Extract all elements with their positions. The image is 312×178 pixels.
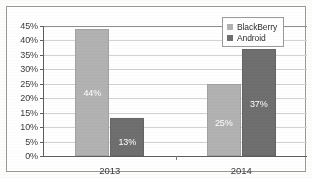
bar-chart-figure: 0%5%10%15%20%25%30%35%40%45%44%13%201325… [0,0,312,178]
x-axis-tick [176,156,177,160]
y-axis-label: 5% [25,137,38,147]
y-axis-tick [40,142,44,143]
legend-swatch-android-icon [227,35,233,41]
y-axis-label: 10% [20,122,38,132]
bar-blackberry-2013[interactable]: 44% [75,29,109,156]
y-axis-label: 25% [20,79,38,89]
legend-swatch-blackberry-icon [227,24,233,30]
y-axis-tick [40,113,44,114]
y-axis-tick [40,98,44,99]
y-axis-label: 45% [20,21,38,31]
bar-android-2014[interactable]: 37% [242,49,276,156]
bar-android-2013[interactable]: 13% [110,118,144,156]
chart-legend: BlackBerry Android [222,17,284,47]
y-axis-label: 0% [25,151,38,161]
y-axis-label: 20% [20,93,38,103]
x-axis-label-2014: 2014 [231,165,252,176]
legend-label-android: Android [237,33,266,43]
y-axis-tick [40,26,44,27]
y-axis-label: 40% [20,35,38,45]
y-axis-label: 30% [20,64,38,74]
legend-label-blackberry: BlackBerry [237,22,277,32]
y-axis-tick [40,55,44,56]
y-axis-tick [40,156,44,157]
legend-item-blackberry[interactable]: BlackBerry [227,21,277,32]
y-axis-tick [40,127,44,128]
bar-value-label: 44% [76,88,108,98]
y-axis-tick [40,69,44,70]
bar-value-label: 25% [208,118,240,128]
bar-value-label: 13% [111,137,143,147]
y-axis-label: 15% [20,108,38,118]
y-axis-label: 35% [20,50,38,60]
x-axis-label-2013: 2013 [99,165,120,176]
y-axis-tick [40,40,44,41]
bar-value-label: 37% [243,99,275,109]
bar-blackberry-2014[interactable]: 25% [207,84,241,156]
y-axis-tick [40,84,44,85]
legend-item-android[interactable]: Android [227,32,277,43]
chart-frame: 0%5%10%15%20%25%30%35%40%45%44%13%201325… [6,6,306,172]
